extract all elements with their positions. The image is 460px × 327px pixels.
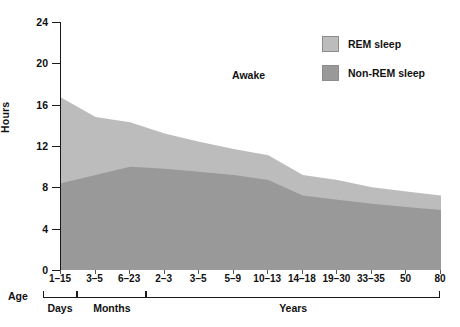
y-tick-mark	[52, 63, 60, 64]
x-group-label: Months	[93, 303, 130, 314]
x-tick-mark	[405, 270, 406, 274]
x-group-label: Years	[279, 303, 307, 314]
x-tick-mark	[129, 270, 130, 274]
y-tick-label: 24	[22, 17, 48, 28]
x-tick-mark	[198, 270, 199, 274]
y-tick-label: 16	[22, 100, 48, 111]
legend-item-rem-sleep: REM sleep	[322, 36, 425, 52]
y-tick-label: 0	[22, 265, 48, 276]
y-tick-mark	[52, 22, 60, 23]
legend-item-non-rem-sleep: Non-REM sleep	[322, 65, 425, 81]
x-tick-label: 6–23	[118, 274, 140, 284]
x-tick-mark	[233, 270, 234, 274]
x-tick-mark	[336, 270, 337, 274]
x-group-bracket	[43, 291, 78, 298]
y-tick-mark	[52, 146, 60, 147]
x-group-label: Days	[47, 303, 72, 314]
y-tick-mark	[52, 229, 60, 230]
legend-label-non-rem: Non-REM sleep	[348, 67, 425, 79]
x-tick-label: 2–3	[155, 274, 172, 284]
x-tick-mark	[60, 270, 61, 274]
x-tick-label: 50	[400, 274, 411, 284]
sleep-stages-area-chart: Hours 04812162024 Awake REM sleep Non-RE…	[0, 0, 460, 327]
x-tick-mark	[95, 270, 96, 274]
x-tick-mark	[440, 270, 441, 274]
non-rem-sleep-area	[61, 167, 441, 270]
y-tick-mark	[52, 270, 60, 271]
x-group-bracket	[146, 291, 440, 298]
y-tick-label: 12	[22, 141, 48, 152]
legend-swatch-non-rem-icon	[322, 65, 339, 81]
x-tick-label: 80	[434, 274, 445, 284]
x-tick-label: 14–18	[288, 274, 316, 284]
y-axis-title: Hours	[0, 102, 11, 133]
legend-swatch-rem-icon	[322, 36, 339, 52]
x-tick-mark	[302, 270, 303, 274]
x-tick-label: 33–35	[357, 274, 385, 284]
chart-legend: REM sleep Non-REM sleep	[322, 36, 425, 94]
x-tick-label: 19–30	[322, 274, 350, 284]
x-tick-label: 1–15	[49, 274, 71, 284]
y-tick-label: 8	[22, 182, 48, 193]
x-tick-mark	[371, 270, 372, 274]
y-tick-mark	[52, 105, 60, 106]
awake-annotation: Awake	[232, 69, 265, 81]
x-axis-title: Age	[8, 291, 28, 302]
x-tick-label: 3–5	[86, 274, 103, 284]
y-tick-mark	[52, 187, 60, 188]
x-tick-label: 10–13	[253, 274, 281, 284]
x-tick-mark	[267, 270, 268, 274]
legend-label-rem: REM sleep	[348, 38, 401, 50]
x-tick-label: 5–9	[224, 274, 241, 284]
y-tick-label: 4	[22, 224, 48, 235]
x-tick-label: 3–5	[190, 274, 207, 284]
x-tick-mark	[164, 270, 165, 274]
y-tick-label: 20	[22, 58, 48, 69]
x-group-bracket	[77, 291, 146, 298]
